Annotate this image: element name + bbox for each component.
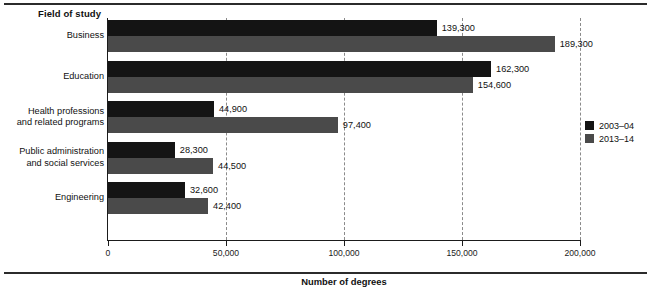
category-label-line: Public administration	[0, 146, 104, 158]
category-label-column: BusinessEducationHealth professionsand r…	[0, 18, 104, 240]
legend-swatch-icon	[585, 121, 594, 130]
bar-0	[108, 61, 491, 77]
bar-1	[108, 198, 208, 214]
bar-value-label: 162,300	[496, 61, 529, 77]
category-label: Health professionsand related programs	[0, 106, 104, 129]
bar-1	[108, 158, 213, 174]
bar-1	[108, 77, 473, 93]
category-label-line: Health professions	[0, 106, 104, 118]
x-axis-title: Number of degrees	[108, 276, 580, 287]
legend-swatch-icon	[585, 134, 594, 143]
category-label: Public administrationand social services	[0, 146, 104, 169]
x-axis-tick	[580, 240, 581, 246]
bar-value-label: 32,600	[190, 182, 218, 198]
bar-0	[108, 142, 175, 158]
bar-value-label: 28,300	[180, 142, 208, 158]
legend-label: 2003–04	[599, 121, 634, 131]
x-axis-tick	[108, 240, 109, 246]
category-label: Business	[0, 30, 104, 42]
category-label: Engineering	[0, 192, 104, 204]
bar-1	[108, 117, 338, 133]
x-axis-tick-label: 150,000	[446, 248, 477, 258]
category-label-line: Business	[0, 30, 104, 42]
x-axis-tick-label: 200,000	[564, 248, 595, 258]
category-label: Education	[0, 71, 104, 83]
bar-value-label: 44,500	[218, 158, 246, 174]
category-label-line: and social services	[0, 158, 104, 170]
bar-0	[108, 182, 185, 198]
bottom-divider-rule	[4, 272, 647, 274]
category-label-line: and related programs	[0, 117, 104, 129]
x-axis-tick	[226, 240, 227, 246]
x-axis-tick	[344, 240, 345, 246]
bar-value-label: 44,900	[219, 101, 247, 117]
category-label-line: Education	[0, 71, 104, 83]
chart-legend: 2003–042013–14	[585, 119, 634, 145]
bar-0	[108, 20, 437, 36]
x-axis-tick-label: 50,000	[213, 248, 239, 258]
plot-area: Number of degrees 050,000100,000150,0002…	[108, 18, 580, 240]
bar-1	[108, 36, 555, 52]
bar-value-label: 189,300	[560, 36, 593, 52]
bar-value-label: 42,400	[213, 198, 241, 214]
top-divider-rule	[4, 3, 647, 5]
legend-item: 2003–04	[585, 119, 634, 132]
bar-value-label: 154,600	[478, 77, 511, 93]
bar-value-label: 139,300	[442, 20, 475, 36]
x-axis-tick-label: 0	[106, 248, 111, 258]
x-axis-tick-label: 100,000	[328, 248, 359, 258]
legend-item: 2013–14	[585, 132, 634, 145]
category-label-line: Engineering	[0, 192, 104, 204]
legend-label: 2013–14	[599, 134, 634, 144]
bar-value-label: 97,400	[343, 117, 371, 133]
x-axis-tick	[462, 240, 463, 246]
bar-0	[108, 101, 214, 117]
